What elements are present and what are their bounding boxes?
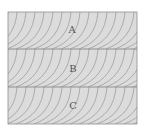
layer-label-a: A	[68, 24, 75, 35]
layer-label-b: B	[69, 63, 76, 74]
layer-label-c: C	[69, 100, 77, 111]
